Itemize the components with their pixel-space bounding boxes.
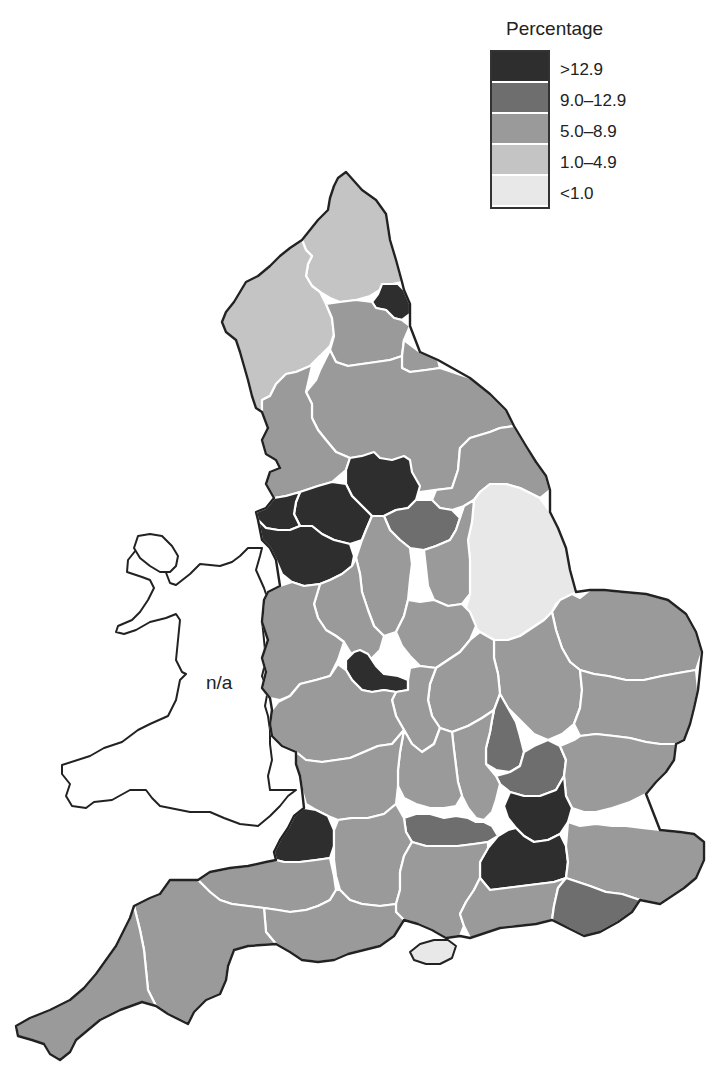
region-wales [62,548,296,826]
legend-swatch-4 [492,176,548,205]
legend-label-2: 5.0–8.9 [560,116,626,147]
region-northumberland [302,172,402,302]
wales-na-label: n/a [206,672,232,694]
legend-label-0: >12.9 [560,54,626,85]
legend-swatch-3 [492,145,548,176]
region-essex [560,734,676,812]
legend-title: Percentage [506,18,630,40]
legend-swatch-2 [492,114,548,145]
legend-swatch-1 [492,83,548,114]
region-cleveland [402,340,440,372]
legend: Percentage >12.9 9.0–12.9 5.0–8.9 1.0–4.… [490,18,630,209]
legend-label-3: 1.0–4.9 [560,147,626,178]
region-suffolk [574,670,698,744]
legend-swatches [490,50,550,209]
region-west-sussex [460,878,566,938]
region-isle-of-wight [410,940,456,964]
legend-labels: >12.9 9.0–12.9 5.0–8.9 1.0–4.9 <1.0 [560,50,626,209]
england-counties [16,172,704,1060]
legend-swatch-0 [492,52,548,83]
legend-body: >12.9 9.0–12.9 5.0–8.9 1.0–4.9 <1.0 [490,50,630,209]
legend-label-1: 9.0–12.9 [560,85,626,116]
legend-label-4: <1.0 [560,178,626,209]
region-cornwall [16,906,156,1060]
